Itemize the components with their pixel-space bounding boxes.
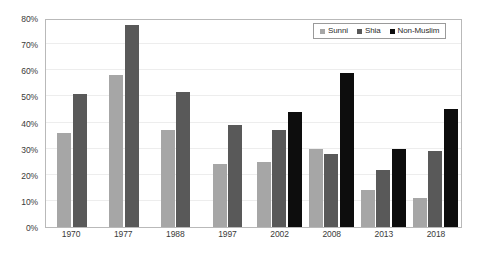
y-tick-label: 80% (21, 15, 38, 24)
bar-shia-1970 (73, 94, 87, 227)
bar-chart: 0%10%20%30%40%50%60%70%80% 1970197719881… (0, 0, 477, 255)
x-tick-label: 2018 (410, 230, 462, 239)
bar-shia-2002 (272, 130, 286, 227)
y-tick-label: 0% (26, 224, 38, 233)
x-tick-label: 2008 (306, 230, 358, 239)
bar-sunni-1970 (57, 133, 71, 227)
bar-non-muslim-2008 (340, 73, 354, 227)
bar-group-2008 (305, 20, 357, 227)
bar-shia-1997 (228, 125, 242, 227)
y-tick-label: 20% (21, 172, 38, 181)
y-tick-label: 30% (21, 145, 38, 154)
bar-group-2013 (357, 20, 409, 227)
x-axis: 19701977198819972002200820132018 (45, 230, 462, 239)
bar-shia-2013 (376, 170, 390, 227)
bar-non-muslim-2013 (392, 149, 406, 227)
x-tick-label: 2013 (358, 230, 410, 239)
bar-sunni-2018 (413, 198, 427, 227)
y-tick-label: 40% (21, 119, 38, 128)
bar-sunni-1997 (213, 164, 227, 227)
bar-sunni-2008 (309, 149, 323, 227)
y-tick-label: 70% (21, 41, 38, 50)
x-tick-label: 1997 (201, 230, 253, 239)
bar-sunni-2013 (361, 190, 375, 227)
y-axis: 0%10%20%30%40%50%60%70%80% (0, 0, 42, 255)
bars-layer (46, 20, 461, 227)
legend-item-non-muslim[interactable]: Non-Muslim (390, 27, 440, 35)
bar-sunni-1988 (161, 130, 175, 227)
bar-group-1988 (150, 20, 202, 227)
bar-group-1970 (46, 20, 98, 227)
bar-shia-2008 (324, 154, 338, 227)
bar-sunni-2002 (257, 162, 271, 227)
bar-non-muslim-2002 (288, 112, 302, 227)
y-tick-label: 50% (21, 93, 38, 102)
legend-label: Sunni (328, 27, 348, 35)
bar-shia-1988 (176, 92, 190, 227)
plot-area (45, 19, 462, 228)
legend-swatch-icon (357, 29, 362, 34)
x-tick-label: 2002 (254, 230, 306, 239)
legend-label: Shia (365, 27, 381, 35)
legend-item-sunni[interactable]: Sunni (320, 27, 348, 35)
y-tick-label: 60% (21, 67, 38, 76)
bar-group-1997 (202, 20, 254, 227)
legend-label: Non-Muslim (398, 27, 440, 35)
bar-non-muslim-2018 (444, 109, 458, 227)
legend-swatch-icon (320, 29, 325, 34)
x-tick-label: 1970 (45, 230, 97, 239)
legend-swatch-icon (390, 29, 395, 34)
legend: SunniShiaNon-Muslim (313, 23, 446, 39)
bar-group-1977 (98, 20, 150, 227)
x-tick-label: 1977 (97, 230, 149, 239)
y-tick-label: 10% (21, 198, 38, 207)
bar-shia-1977 (125, 25, 139, 227)
bar-shia-2018 (428, 151, 442, 227)
x-tick-label: 1988 (149, 230, 201, 239)
bar-group-2018 (409, 20, 461, 227)
bar-group-2002 (254, 20, 306, 227)
bar-sunni-1977 (109, 75, 123, 227)
legend-item-shia[interactable]: Shia (357, 27, 381, 35)
